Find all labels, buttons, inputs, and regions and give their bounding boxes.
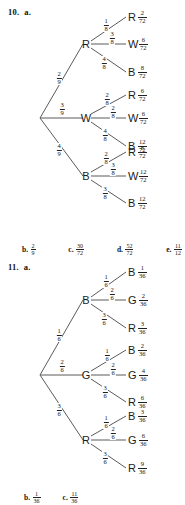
tree-11-leaf-value-7: 336 <box>138 409 147 423</box>
problem-11-answer-b: b. 136 <box>24 491 41 504</box>
tree-11-leaf-value-3: 336 <box>138 321 147 335</box>
problem-11-answer-c: c. 1136 <box>63 491 79 504</box>
tree-11-node-g: G <box>82 370 91 381</box>
tree-11-leaf-value-4: 236 <box>138 343 147 357</box>
tree-11-leaf-letter-9: R <box>128 463 136 474</box>
tree-11-root-edge-label-g: 26 <box>59 359 65 373</box>
tree-11-edge-label-6: 36 <box>102 385 108 399</box>
tree-11-root-edge-label-b: 16 <box>56 328 62 342</box>
tree-11-leaf-letter-3: R <box>128 323 136 334</box>
tree-11-leaf-letter-6: R <box>128 397 136 408</box>
tree-11-leaf-letter-5: G <box>128 370 137 381</box>
tree-11-leaf-value-5: 436 <box>139 368 148 382</box>
problem-11-answers: b. 136 c. 1136 <box>24 491 78 504</box>
tree-11-leaf-value-2: 236 <box>139 293 148 307</box>
tree-11-edges <box>0 0 185 505</box>
tree-11-edge-label-8: 26 <box>110 426 116 440</box>
tree-11-leaf-letter-2: G <box>128 295 137 306</box>
tree-11-leaf-letter-8: G <box>128 435 137 446</box>
worksheet-page: 10.a. R W B 29 39 49 <box>0 0 185 505</box>
tree-11-node-r: R <box>82 435 90 446</box>
tree-11-leaf-value-6: 636 <box>138 395 147 409</box>
tree-11-leaf-letter-1: B <box>128 267 135 278</box>
tree-11-leaf-letter-4: B <box>128 345 135 356</box>
tree-11-edge-label-9: 36 <box>102 451 108 465</box>
tree-11-leaf-value-8: 636 <box>139 433 148 447</box>
tree-11-edge-label-5: 26 <box>110 362 116 376</box>
tree-11-leaf-value-1: 136 <box>138 265 147 279</box>
tree-11-root-edge-label-r: 36 <box>56 403 62 417</box>
tree-11-edge-label-7: 16 <box>103 415 109 429</box>
tree-11-edge-label-1: 16 <box>103 274 109 288</box>
tree-11-edge-label-4: 16 <box>104 348 110 362</box>
tree-11-edge-label-3: 36 <box>101 312 107 326</box>
tree-11-leaf-letter-7: B <box>128 411 135 422</box>
tree-11-leaf-value-9: 936 <box>138 461 147 475</box>
tree-11-edge-label-2: 26 <box>109 287 115 301</box>
tree-11-node-b: B <box>82 295 89 306</box>
